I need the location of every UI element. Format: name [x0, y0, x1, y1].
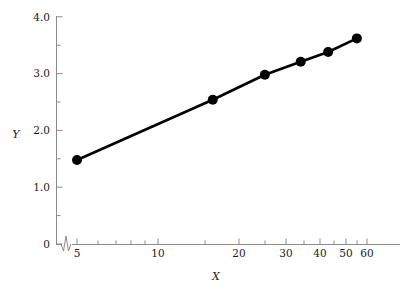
y-tick-label-3: 3.0 [33, 67, 50, 79]
data-point [352, 33, 362, 43]
x-tick-label-30: 30 [279, 247, 292, 259]
chart-plot-area: 4.0 3.0 2.0 1.0 0 5 10 20 [0, 0, 417, 289]
x-tick-label-40: 40 [313, 247, 326, 259]
y-major-ticks [57, 17, 63, 244]
data-point [323, 47, 333, 57]
data-point [72, 155, 82, 165]
x-tick-label-50: 50 [339, 247, 352, 259]
x-tick-label-20: 20 [232, 247, 245, 259]
y-axis-title: Y [12, 128, 21, 141]
y-tick-label-0: 0 [43, 238, 50, 250]
x-axis-title: X [211, 270, 221, 283]
x-tick-label-5: 5 [74, 247, 81, 259]
data-point [260, 70, 270, 80]
x-major-ticks [77, 239, 367, 245]
x-tick-label-10: 10 [151, 247, 164, 259]
chart-figure: 4.0 3.0 2.0 1.0 0 5 10 20 [0, 0, 417, 289]
x-minor-ticks [98, 241, 357, 245]
data-series-markers [72, 33, 362, 165]
data-point [208, 95, 218, 105]
y-tick-label-1: 1.0 [33, 181, 50, 193]
y-tick-label-4: 4.0 [33, 11, 50, 23]
data-point [296, 57, 306, 67]
x-tick-label-60: 60 [360, 247, 373, 259]
y-tick-label-2: 2.0 [33, 124, 50, 136]
